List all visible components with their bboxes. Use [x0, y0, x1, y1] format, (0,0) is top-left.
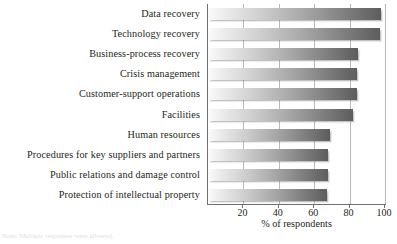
bar [208, 109, 353, 121]
gridline [385, 4, 386, 204]
x-axis-tick-label: 80 [334, 207, 364, 218]
x-axis-tick-label: 20 [227, 207, 257, 218]
bar [208, 129, 330, 141]
x-axis-tick-label: 60 [298, 207, 328, 218]
bar [208, 48, 358, 60]
bar-series [208, 4, 385, 204]
bar [208, 169, 328, 181]
category-label: Human resources [0, 129, 200, 140]
bar [208, 8, 381, 20]
bar [208, 189, 327, 201]
bar [208, 68, 357, 80]
category-label: Data recovery [0, 8, 200, 19]
chart-footnote: Note: Multiple responses were allowed. [2, 232, 232, 241]
category-label: Technology recovery [0, 28, 200, 39]
x-axis-tick-label: 40 [263, 207, 293, 218]
category-label: Public relations and damage control [0, 169, 200, 180]
bar [208, 88, 357, 100]
plot-area [207, 4, 386, 205]
category-label: Crisis management [0, 68, 200, 79]
bar [208, 149, 328, 161]
category-label: Business-process recovery [0, 48, 200, 59]
category-label: Procedures for key suppliers and partner… [0, 149, 200, 160]
category-label: Facilities [0, 109, 200, 120]
x-axis-label: % of respondents [207, 218, 386, 229]
category-axis-labels: Data recoveryTechnology recoveryBusiness… [0, 0, 204, 205]
category-label: Customer-support operations [0, 88, 200, 99]
category-label: Protection of intellectual property [0, 189, 200, 200]
bar [208, 28, 380, 40]
bar-chart: Data recoveryTechnology recoveryBusiness… [0, 0, 397, 244]
x-axis-tick-label: 100 [369, 207, 397, 218]
